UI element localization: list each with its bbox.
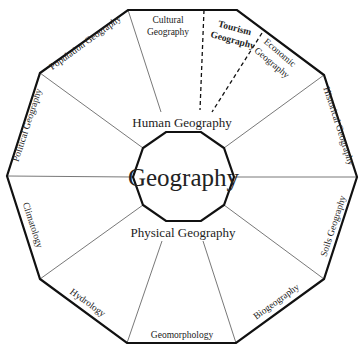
political-label: Political Geography	[11, 87, 44, 163]
divider-soils-biogeography	[224, 205, 324, 279]
dashed-divider-cultural-tourism	[200, 10, 204, 110]
cultural-label-line2: Geography	[147, 27, 189, 37]
geomorphology-label: Geomorphology	[151, 330, 214, 340]
physical-geography-label: Physical Geography	[130, 225, 236, 240]
divider-hydrology-geomorphology	[127, 241, 162, 343]
climatology-label: Climatology	[21, 201, 45, 250]
divider-population-political	[40, 73, 143, 148]
cultural-label-line1: Cultural	[152, 15, 183, 25]
diagram-canvas: Geography Human Geography Physical Geogr…	[0, 0, 364, 351]
geography-diagram: Geography Human Geography Physical Geogr…	[0, 0, 364, 351]
historical-label: Historical Geography	[321, 86, 356, 167]
divider-political-climatology	[7, 176, 133, 177]
divider-population-cultural	[128, 10, 161, 112]
population-label: Population Geography	[48, 13, 123, 72]
divider-climatology-hydrology	[40, 205, 143, 279]
divider-geomorphology-biogeography	[203, 241, 236, 343]
divider-economic-historical	[224, 75, 324, 148]
center-label: Geography	[128, 164, 240, 191]
human-geography-label: Human Geography	[132, 115, 232, 130]
